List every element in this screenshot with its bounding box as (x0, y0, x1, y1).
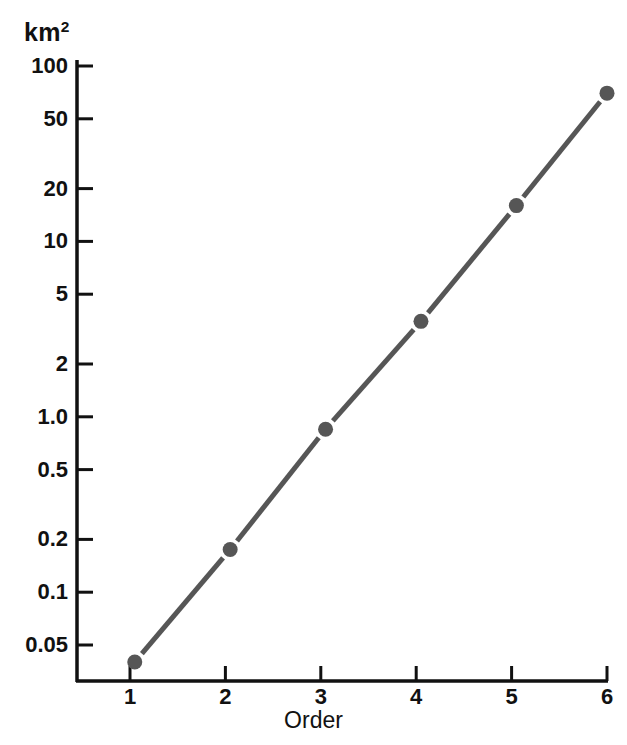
plot-area (0, 0, 627, 745)
x-axis-tick-label: 3 (315, 686, 327, 708)
y-axis-tick-label: 10 (0, 230, 68, 252)
x-axis-tick-label: 1 (124, 686, 136, 708)
y-axis-tick-label: 20 (0, 178, 68, 200)
y-axis-tick-label: 0.05 (0, 634, 68, 656)
y-axis-tick-label: 1.0 (0, 406, 68, 428)
data-line-segment (237, 438, 319, 541)
y-axis-tick-label: 2 (0, 353, 68, 375)
data-line-segment (142, 558, 223, 654)
data-series-line (142, 102, 600, 654)
x-axis-tick-label: 5 (505, 686, 517, 708)
x-axis-tick-label: 2 (219, 686, 231, 708)
y-axis-tick-label: 0.5 (0, 459, 68, 481)
data-point-marker (509, 198, 524, 213)
data-point-marker (318, 422, 333, 437)
y-axis-tick-label: 50 (0, 108, 68, 130)
x-axis-title: Order (0, 709, 627, 732)
y-axis-ticks (77, 66, 93, 645)
data-point-marker (223, 542, 238, 557)
x-axis-tick-label: 6 (601, 686, 613, 708)
x-axis-tick-label: 4 (410, 686, 422, 708)
y-axis-tick-label: 0.2 (0, 528, 68, 550)
data-line-segment (523, 102, 600, 197)
x-axis-ticks (130, 666, 607, 681)
data-point-marker (413, 314, 428, 329)
y-axis-tick-label: 100 (0, 55, 68, 77)
data-point-marker (127, 654, 142, 669)
axis-lines (76, 60, 608, 682)
data-line-segment (428, 214, 509, 313)
y-axis-tick-label: 5 (0, 283, 68, 305)
data-point-marker (600, 86, 615, 101)
chart-figure: km2 100502010521.00.50.20.10.05 123456 O… (0, 0, 627, 745)
data-line-segment (333, 330, 414, 421)
y-axis-tick-label: 0.1 (0, 581, 68, 603)
